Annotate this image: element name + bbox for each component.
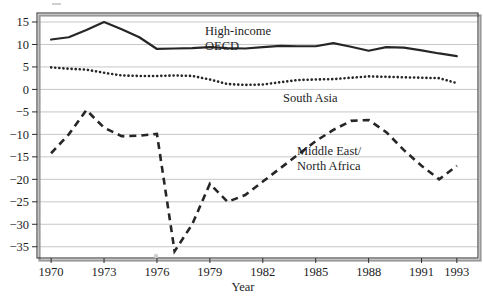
y-tick-label: −20 (9, 173, 29, 187)
y-tick-label: −15 (9, 150, 29, 164)
annotation-south-asia: South Asia (283, 91, 338, 105)
y-tick-label: 15 (17, 15, 30, 29)
chart-container: 151050−5−10−15−20−25−30−35 1970197319761… (0, 0, 483, 297)
y-axis-ticks-group: 151050−5−10−15−20−25−30−35 (9, 15, 37, 254)
y-tick-label: 5 (23, 60, 29, 74)
y-tick-label: −5 (16, 105, 29, 119)
annotation-high-income-oecd-line1: High-income (205, 24, 271, 38)
x-tick-label: 1979 (197, 265, 222, 279)
x-tick-label: 1991 (409, 265, 434, 279)
annotation-high-income-oecd-line2: OECD (205, 39, 239, 53)
line-chart-svg: 151050−5−10−15−20−25−30−35 1970197319761… (0, 0, 483, 297)
x-tick-label: 1988 (356, 265, 381, 279)
x-tick-label: 1985 (303, 265, 328, 279)
scan-artifact (154, 254, 158, 258)
y-tick-label: −35 (9, 240, 29, 254)
annotation-middle-east-north-africa-line1: Middle East/ (297, 144, 362, 158)
y-tick-label: 10 (17, 38, 30, 52)
y-tick-label: −10 (9, 128, 29, 142)
annotation-middle-east-north-africa-line2: North Africa (297, 159, 361, 173)
x-tick-label: 1976 (144, 265, 169, 279)
scan-artifact (52, 3, 61, 5)
y-tick-label: −30 (9, 218, 29, 232)
x-tick-label: 1993 (444, 265, 469, 279)
x-tick-label: 1982 (250, 265, 275, 279)
x-tick-label: 1970 (39, 265, 64, 279)
y-tick-label: −25 (9, 195, 29, 209)
x-tick-label: 1973 (92, 265, 117, 279)
x-axis-title: Year (231, 280, 255, 294)
y-tick-label: 0 (23, 83, 29, 97)
